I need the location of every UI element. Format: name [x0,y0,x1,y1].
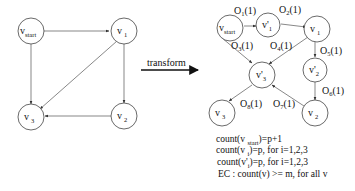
edge-label-o8: O8(1) [240,98,262,110]
edge-label-o3: O3(1) [231,40,253,52]
node-v-start: vstart [18,18,44,44]
node-v2: v2 [111,103,137,129]
node-v1: v1 [111,18,137,44]
edge-v1-v3 [40,41,117,109]
node-v3: v3 [18,104,44,130]
node-v3-prime: v'3 [249,62,275,88]
node-v1-prime: v'1 [256,13,280,37]
transform-arrow: transform [141,57,198,70]
edge-o2 [281,24,306,27]
edge-label-o5: O5(1) [320,45,342,57]
edge-label-o6: O6(1) [322,85,344,97]
left-graph: vstart v1 v3 v2 [18,18,137,130]
node-v-start: vstart [217,15,243,41]
edge-label-o1: O1(1) [234,5,256,17]
node-v3: v3 [209,100,235,126]
node-v2: v2 [302,100,328,126]
edge-label-o4: O4(1) [270,40,292,52]
node-v1: v1 [304,16,330,42]
transform-label: transform [147,57,186,68]
node-v2-prime: v'2 [303,58,327,82]
edge-label-o7: O7(1) [273,98,295,110]
formula-edge-constraint: EC : count(v) >= m, for all v [218,169,327,181]
right-graph: O1(1) O2(1) O3(1) O4(1) O5(1) O6(1) O7(1… [209,4,344,126]
edge-label-o2: O2(1) [279,4,301,16]
